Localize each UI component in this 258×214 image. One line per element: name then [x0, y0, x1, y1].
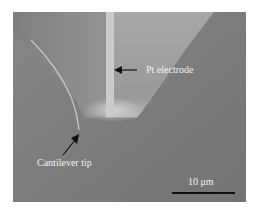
scale-bar-label: 10 μm	[188, 177, 214, 187]
cantilever-tip-label: Cantilever tip	[37, 158, 92, 168]
scale-bar	[172, 192, 235, 194]
pt-electrode-strip	[106, 12, 114, 118]
sem-scene	[13, 12, 246, 202]
sem-image: Pt electrode Cantilever tip 10 μm	[13, 12, 246, 202]
pt-electrode-label: Pt electrode	[146, 65, 193, 75]
